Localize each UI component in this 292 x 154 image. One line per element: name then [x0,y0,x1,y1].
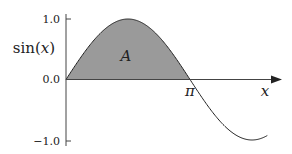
ytick-label-1: 1.0 [43,13,61,26]
y-axis-label: sin(x) [13,39,55,57]
ytick-label-0: 0.0 [43,73,61,86]
xtick-label-pi: π [184,82,196,100]
area-label-A: A [119,47,132,65]
ytick-label-neg1: −1.0 [33,135,60,148]
x-axis-label: x [261,82,270,100]
x-axis-arrow-icon [271,76,282,84]
sine-area-chart: 1.0 0.0 −1.0 sin(x) π x A [0,0,292,154]
